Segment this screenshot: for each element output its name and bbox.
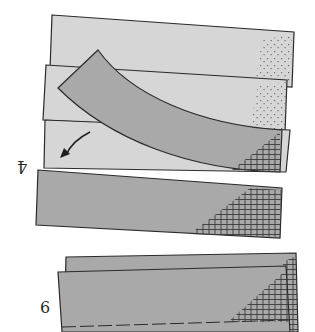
step-label-4: 4 xyxy=(17,158,27,174)
folding-diagram: 4 6 xyxy=(0,0,315,332)
step-6-illustration xyxy=(58,253,298,332)
step-label-6: 6 xyxy=(40,300,50,316)
step-4-illustration xyxy=(36,15,294,238)
